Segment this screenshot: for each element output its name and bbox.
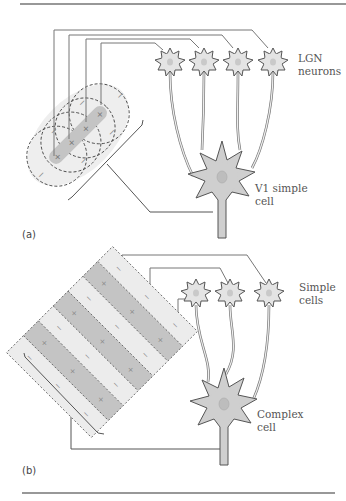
lgn-neuron-2	[189, 48, 219, 76]
simple-label-2: cells	[299, 294, 323, 306]
panel-a-label: (a)	[22, 229, 36, 240]
lgn-neuron-3	[223, 48, 253, 76]
complex-receptive-field: −−− +++ −−− +++ −−− +++ −−−	[7, 247, 198, 438]
lgn-label-2: neurons	[298, 65, 341, 77]
v1-label-2: cell	[255, 195, 274, 207]
lgn-neuron-1	[155, 48, 185, 76]
simple-cell-1	[181, 279, 211, 307]
simple-cell-3	[254, 279, 284, 307]
panel-b: −−− +++ −−− +++ −−− +++ −−− Simple	[7, 247, 336, 476]
panel-a: + + + + − − − − − −	[9, 30, 342, 240]
complex-label-2: cell	[257, 421, 276, 433]
v1-label-1: V1 simple	[254, 182, 308, 194]
figure-canvas: + + + + − − − − − −	[0, 0, 346, 501]
lgn-label-1: LGN	[298, 52, 323, 64]
complex-label-1: Complex	[257, 408, 304, 420]
v1-simple-cell	[188, 141, 255, 238]
simple-label-1: Simple	[299, 281, 336, 293]
panel-b-label: (b)	[22, 465, 36, 476]
lgn-receptive-fields: + + + + − − − − − −	[9, 66, 148, 205]
lgn-neuron-4	[258, 48, 288, 76]
complex-cell	[190, 368, 257, 465]
simple-cell-2	[215, 279, 245, 307]
